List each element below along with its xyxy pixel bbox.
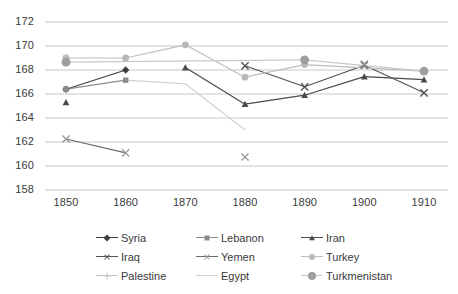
x-tick-label-1870: 1870 xyxy=(165,196,205,208)
line-chart: 158160162164166168170172 185018601870188… xyxy=(0,0,458,294)
y-tick-label-170: 170 xyxy=(8,39,34,51)
legend-marker-circle-icon xyxy=(301,251,323,263)
legend-label-syria: Syria xyxy=(121,232,146,244)
datapoint-iraq-1890 xyxy=(301,83,308,90)
legend-item-syria[interactable]: Syria xyxy=(96,228,196,247)
series-line-egypt xyxy=(126,80,245,130)
y-tick-label-164: 164 xyxy=(8,111,34,123)
legend-item-iraq[interactable]: Iraq xyxy=(96,247,196,266)
x-tick-label-1910: 1910 xyxy=(404,196,444,208)
datapoint-iran-1870 xyxy=(182,64,189,70)
series-lines xyxy=(66,45,424,153)
legend-item-turkey[interactable]: Turkey xyxy=(301,247,419,266)
series-markers xyxy=(62,41,429,160)
datapoint-iraq-1910 xyxy=(420,89,427,96)
series-line-lebanon xyxy=(66,80,126,89)
datapoint-turkey-1880 xyxy=(242,74,249,81)
legend-label-iran: Iran xyxy=(326,232,345,244)
y-tick-label-166: 166 xyxy=(8,87,34,99)
datapoint-lebanon-1860 xyxy=(123,78,128,83)
legend-label-turkmenistan: Turkmenistan xyxy=(326,270,392,282)
chart-legend: SyriaLebanonIranIraqYemenTurkeyPalestine… xyxy=(96,228,406,285)
legend-label-lebanon: Lebanon xyxy=(221,232,264,244)
datapoint-turkey-1860 xyxy=(122,55,129,62)
legend-item-iran[interactable]: Iran xyxy=(301,228,419,247)
datapoint-iran-1850 xyxy=(63,99,70,105)
legend-marker-plus-icon xyxy=(96,270,118,282)
legend-label-palestine: Palestine xyxy=(121,270,166,282)
x-tick-label-1900: 1900 xyxy=(344,196,384,208)
legend-label-yemen: Yemen xyxy=(221,251,255,263)
y-tick-label-158: 158 xyxy=(8,183,34,195)
series-markers-iran xyxy=(63,64,428,107)
y-tick-label-172: 172 xyxy=(8,15,34,27)
x-tick-label-1890: 1890 xyxy=(285,196,325,208)
datapoint-lebanon-1850 xyxy=(63,87,68,92)
legend-marker-diamond-icon xyxy=(96,232,118,244)
y-tick-label-162: 162 xyxy=(8,135,34,147)
y-tick-label-168: 168 xyxy=(8,63,34,75)
legend-item-lebanon[interactable]: Lebanon xyxy=(196,228,301,247)
legend-marker-x-icon xyxy=(96,251,118,263)
datapoint-yemen-1880 xyxy=(241,153,248,160)
series-line-syria xyxy=(66,70,126,89)
datapoint-syria-1860 xyxy=(122,66,129,73)
legend-marker-none-icon xyxy=(196,270,218,282)
legend-item-turkmenistan[interactable]: Turkmenistan xyxy=(301,266,419,285)
x-tick-label-1860: 1860 xyxy=(106,196,146,208)
datapoint-yemen-1900 xyxy=(361,60,368,67)
datapoint-turkmenistan-1910 xyxy=(420,67,429,76)
legend-marker-bigcircle-icon xyxy=(301,270,323,282)
legend-item-egypt[interactable]: Egypt xyxy=(196,266,301,285)
legend-label-egypt: Egypt xyxy=(221,270,249,282)
legend-item-yemen[interactable]: Yemen xyxy=(196,247,301,266)
legend-marker-triangle-icon xyxy=(301,232,323,244)
legend-marker-square-icon xyxy=(196,232,218,244)
datapoint-turkey-1870 xyxy=(182,41,189,48)
legend-label-turkey: Turkey xyxy=(326,251,359,263)
legend-item-palestine[interactable]: Palestine xyxy=(96,266,196,285)
x-tick-label-1880: 1880 xyxy=(225,196,265,208)
datapoint-turkmenistan-1850 xyxy=(62,58,71,67)
x-tick-label-1850: 1850 xyxy=(46,196,86,208)
y-tick-label-160: 160 xyxy=(8,159,34,171)
datapoint-turkmenistan-1890 xyxy=(300,55,309,64)
datapoint-iraq-1880 xyxy=(241,62,248,69)
series-line-yemen xyxy=(66,139,126,153)
legend-marker-x-icon xyxy=(196,251,218,263)
legend-label-iraq: Iraq xyxy=(121,251,140,263)
